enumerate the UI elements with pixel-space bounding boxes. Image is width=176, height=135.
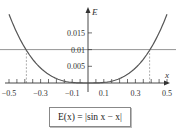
svg-text:0.3: 0.3 <box>130 89 140 98</box>
svg-text:−0.3: −0.3 <box>33 89 48 98</box>
svg-text:−0.1: −0.1 <box>65 89 80 98</box>
svg-text:0.1: 0.1 <box>99 89 109 98</box>
svg-text:−0.5: −0.5 <box>2 89 17 98</box>
formula-label: E(x) = |sin x − x| <box>49 107 131 127</box>
y-axis-label: E <box>91 7 98 17</box>
svg-text:0.01: 0.01 <box>71 46 85 55</box>
formula-text: E(x) = |sin x − x| <box>58 112 122 122</box>
svg-text:0.5: 0.5 <box>162 89 172 98</box>
x-ticks: −0.5−0.3−0.10.10.30.5 <box>2 79 172 98</box>
svg-text:0.015: 0.015 <box>67 29 85 38</box>
y-axis-arrow-icon <box>86 7 91 13</box>
x-axis-label: x <box>164 70 169 80</box>
svg-text:0.005: 0.005 <box>67 62 85 71</box>
